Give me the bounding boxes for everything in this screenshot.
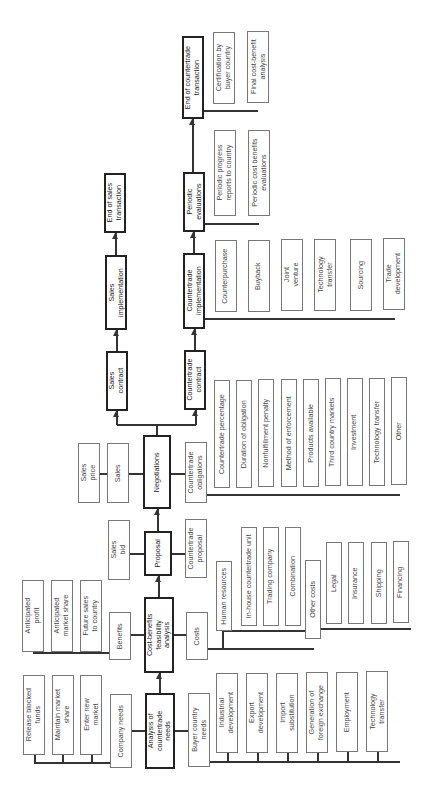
obligation-label: Investment bbox=[351, 414, 360, 449]
arrow-up-icon bbox=[155, 576, 161, 582]
arrow-up-icon bbox=[154, 509, 160, 515]
evaluation-periodic-progress-reports: Periodic progress reports to country bbox=[214, 130, 236, 216]
implementation-label: Counterpurchase bbox=[222, 248, 231, 303]
obligation-method-of-enforcement: Method of enforcement bbox=[281, 379, 297, 487]
sales-price-label: Sales price bbox=[80, 464, 97, 482]
implementation-label: Trade development bbox=[385, 253, 402, 294]
implementation-label: Technology transfer bbox=[316, 257, 333, 293]
connector bbox=[210, 761, 400, 763]
buyer-need-generation-of-foreign-exchange: Generation of foreign exchange bbox=[306, 672, 328, 753]
benefit-label: Anticipated market share bbox=[53, 595, 70, 637]
cost-trading-company: Trading company bbox=[263, 527, 279, 626]
countertrade-implementation-label: Countertrade implementation bbox=[185, 267, 202, 316]
implementation-label: Joint venture bbox=[283, 263, 300, 287]
cost-label: Human resources bbox=[220, 568, 229, 625]
evaluation-label: Periodic progress reports to country bbox=[216, 145, 233, 201]
implementation-technology-transfer: Technology transfer bbox=[314, 239, 336, 311]
connector bbox=[205, 318, 395, 320]
benefits-box: Benefits bbox=[109, 612, 131, 660]
analysis-of-countertrade-needs-box: Analysis of countertrade needs bbox=[145, 693, 175, 769]
implementation-counterpurchase: Counterpurchase bbox=[215, 240, 237, 312]
countertrade-obligations-box: Countertrade obligations bbox=[185, 442, 207, 503]
connector bbox=[34, 762, 110, 764]
implementation-label: Buyback bbox=[255, 262, 264, 290]
connector bbox=[227, 753, 229, 761]
obligation-label: Duration of obligation bbox=[240, 400, 249, 468]
other-cost-label: Insurance bbox=[352, 567, 361, 599]
sales-label: Sales bbox=[114, 464, 123, 482]
obligation-products-available: Products available bbox=[303, 379, 319, 487]
obligation-label: Countertrade percentage bbox=[218, 394, 227, 474]
end-final-cost-benefit-analysis: Final cost-benefit analysis bbox=[247, 31, 269, 103]
obligation-countertrade-percentage: Countertrade percentage bbox=[214, 380, 230, 488]
buyer-need-label: Employment bbox=[343, 692, 352, 732]
connector bbox=[208, 648, 314, 650]
arrow-up-icon bbox=[112, 233, 118, 239]
evaluation-label: Periodic cost benefits evaluations bbox=[250, 139, 267, 207]
connector bbox=[321, 628, 411, 630]
connector bbox=[117, 424, 196, 426]
arrow-up-icon bbox=[113, 330, 119, 336]
implementation-joint-venture: Joint venture bbox=[281, 239, 303, 311]
arrow-up-icon bbox=[189, 119, 195, 125]
obligation-label: Third country markets bbox=[329, 397, 338, 467]
negotiations-label: Negotiations bbox=[153, 452, 162, 492]
end-sales-label: End of sales transaction bbox=[106, 183, 123, 223]
buyer-need-label: Technology transfer bbox=[368, 693, 385, 729]
company-needs-box: Company needs bbox=[110, 694, 132, 768]
countertrade-contract-box: Countertrade contract bbox=[184, 350, 206, 410]
buyer-country-needs-label: Buyer country needs bbox=[190, 708, 207, 752]
company-needs-label: Company needs bbox=[117, 705, 126, 757]
costs-box: Costs bbox=[186, 612, 208, 660]
obligation-technology-transfer: Technology transfer bbox=[369, 378, 385, 486]
sales-implementation-label: Sales implementation bbox=[107, 268, 124, 317]
connector bbox=[129, 473, 143, 475]
arrow-up-icon bbox=[156, 673, 162, 679]
countertrade-proposal-label: Countertrade proposal bbox=[187, 528, 204, 570]
sales-contract-box: Sales contract bbox=[106, 351, 128, 411]
need-enter-new-market: Enter new market bbox=[80, 675, 102, 755]
need-maintain-market-share: Maintain market share bbox=[52, 675, 74, 755]
connector bbox=[130, 553, 144, 555]
other-cost-label: Financing bbox=[397, 566, 406, 597]
benefits-label: Benefits bbox=[116, 623, 125, 649]
cost-benefit-label: Cost-benefits feasibility analysis bbox=[146, 614, 172, 656]
other-cost-shipping: Shipping bbox=[371, 542, 387, 624]
buyer-need-industrial-development: Industrial development bbox=[216, 673, 238, 753]
connector bbox=[205, 223, 259, 225]
connector bbox=[34, 755, 36, 763]
arrow-up-icon bbox=[190, 232, 196, 238]
connector bbox=[287, 753, 289, 761]
proposal-box: Proposal bbox=[144, 531, 172, 576]
arrow-up-icon bbox=[113, 411, 119, 417]
end-of-sales-transaction-box: End of sales transaction bbox=[104, 173, 126, 233]
proposal-label: Proposal bbox=[154, 539, 163, 567]
connector bbox=[222, 630, 224, 648]
benefit-label: Future sales to country bbox=[82, 596, 99, 636]
sales-box: Sales bbox=[107, 443, 129, 503]
other-cost-insurance: Insurance bbox=[348, 542, 364, 624]
other-cost-financing: Financing bbox=[393, 541, 409, 623]
connector bbox=[204, 110, 258, 112]
connector bbox=[192, 119, 194, 172]
cost-benefit-analysis-box: Cost-benefits feasibility analysis bbox=[144, 597, 174, 673]
obligation-third-country-markets: Third country markets bbox=[325, 378, 341, 486]
obligation-nonfulfillment-penalty: Nonfulfillment penalty bbox=[258, 379, 274, 487]
obligation-label: Method of enforcement bbox=[285, 396, 294, 470]
other-cost-legal: Legal bbox=[326, 542, 342, 624]
other-costs-box: Other costs bbox=[305, 560, 321, 639]
cost-human-resources: Human resources bbox=[216, 561, 232, 631]
obligation-investment: Investment bbox=[347, 378, 363, 486]
connector bbox=[377, 752, 379, 761]
cost-label: Trading company bbox=[267, 549, 276, 604]
connector bbox=[131, 634, 144, 636]
need-release-blocked-funds: Release blocked funds bbox=[23, 675, 45, 755]
buyer-need-label: Export development bbox=[248, 692, 265, 733]
connector bbox=[132, 730, 145, 732]
connector bbox=[100, 473, 107, 475]
need-label: Enter new market bbox=[82, 699, 99, 731]
analysis-label: Analysis of countertrade needs bbox=[147, 711, 173, 751]
end-item-label: Final cost-benefit analysis bbox=[249, 40, 266, 95]
countertrade-implementation-box: Countertrade implementation bbox=[183, 253, 205, 329]
connector bbox=[62, 755, 64, 763]
